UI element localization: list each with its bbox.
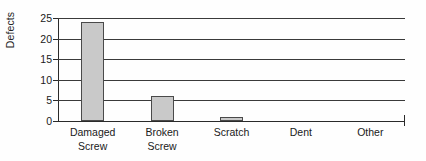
bar-scratch xyxy=(220,117,243,121)
y-axis-tick-labels: 0510152025 xyxy=(24,18,52,121)
bar-damaged-screw xyxy=(81,22,104,121)
y-tick-label-15: 15 xyxy=(30,54,52,65)
y-tick-mark-25 xyxy=(53,18,58,19)
y-tick-label-20: 20 xyxy=(30,34,52,45)
y-tick-mark-10 xyxy=(53,80,58,81)
y-axis-title: Defects xyxy=(4,0,24,60)
x-label-damaged-screw: Damaged Screw xyxy=(58,126,127,153)
gridline-25 xyxy=(58,18,405,19)
x-label-other: Other xyxy=(336,126,405,140)
gridline-20 xyxy=(58,39,405,40)
x-label-dent: Dent xyxy=(266,126,335,140)
y-tick-label-10: 10 xyxy=(30,75,52,86)
y-tick-mark-20 xyxy=(53,39,58,40)
plot-area xyxy=(58,18,405,121)
y-tick-mark-5 xyxy=(53,100,58,101)
y-tick-mark-0 xyxy=(53,121,58,122)
y-tick-mark-15 xyxy=(53,59,58,60)
x-axis-category-labels: Damaged ScrewBroken ScrewScratchDentOthe… xyxy=(58,126,405,160)
gridline-5 xyxy=(58,100,405,101)
x-label-broken-screw: Broken Screw xyxy=(127,126,196,153)
gridline-10 xyxy=(58,80,405,81)
gridline-0 xyxy=(58,121,405,122)
y-tick-label-5: 5 xyxy=(30,95,52,106)
gridline-15 xyxy=(58,59,405,60)
defects-bar-chart: Defects 0510152025 Damaged ScrewBroken S… xyxy=(0,0,426,161)
bar-broken-screw xyxy=(151,96,174,121)
y-tick-label-25: 25 xyxy=(30,13,52,24)
x-label-scratch: Scratch xyxy=(197,126,266,140)
y-tick-label-0: 0 xyxy=(30,116,52,127)
